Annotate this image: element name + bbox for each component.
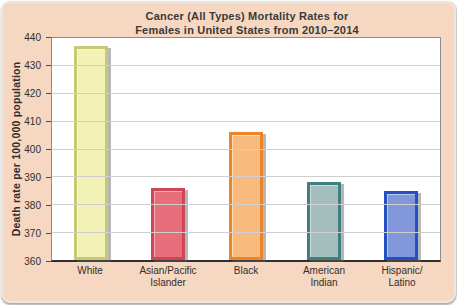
x-label-line: White xyxy=(51,265,129,277)
chart-title: Cancer (All Types) Mortality Rates for F… xyxy=(51,9,443,37)
x-label-hispanic-latino: Hispanic/Latino xyxy=(363,265,441,289)
x-label-black: Black xyxy=(207,265,285,289)
chart-title-line-1: Cancer (All Types) Mortality Rates for xyxy=(51,9,443,23)
bar-hispanic-latino xyxy=(384,191,418,260)
x-label-white: White xyxy=(51,265,129,289)
x-label-asian-pacific-islander: Asian/PacificIslander xyxy=(129,265,207,289)
y-tick-label-360: 360 xyxy=(24,256,41,267)
bar-american-indian xyxy=(307,182,341,260)
x-label-line: Latino xyxy=(363,277,441,289)
gridline-390 xyxy=(52,176,440,177)
gridline-400 xyxy=(52,149,440,150)
x-axis-labels: WhiteAsian/PacificIslanderBlackAmericanI… xyxy=(51,265,441,289)
x-label-line: Islander xyxy=(129,277,207,289)
gridline-380 xyxy=(52,204,440,205)
plot-area xyxy=(51,37,441,262)
x-label-line: Asian/Pacific xyxy=(129,265,207,277)
gridline-420 xyxy=(52,93,440,94)
x-label-american-indian: AmericanIndian xyxy=(285,265,363,289)
y-tick-label-410: 410 xyxy=(24,116,41,127)
y-tick-label-390: 390 xyxy=(24,172,41,183)
x-label-line: Indian xyxy=(285,277,363,289)
y-tick-label-400: 400 xyxy=(24,144,41,155)
gridline-430 xyxy=(52,65,440,66)
x-label-line: American xyxy=(285,265,363,277)
y-tick-label-420: 420 xyxy=(24,88,41,99)
chart-card: Cancer (All Types) Mortality Rates for F… xyxy=(1,1,456,303)
x-label-line: Black xyxy=(207,265,285,277)
bar-white xyxy=(74,46,108,260)
gridline-410 xyxy=(52,121,440,122)
gridline-370 xyxy=(52,232,440,233)
bar-asian-pacific-islander xyxy=(151,188,185,260)
bar-black xyxy=(229,132,263,260)
y-axis: 440430420410400390380370360 xyxy=(3,37,51,261)
x-label-line: Hispanic/ xyxy=(363,265,441,277)
y-tick-label-370: 370 xyxy=(24,228,41,239)
y-tick-label-380: 380 xyxy=(24,200,41,211)
y-tick-label-430: 430 xyxy=(24,60,41,71)
chart-title-line-2: Females in United States from 2010–2014 xyxy=(51,23,443,37)
y-tick-label-440: 440 xyxy=(24,32,41,43)
